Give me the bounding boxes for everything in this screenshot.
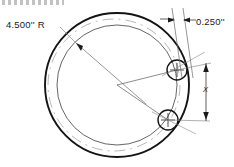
radius-arrowhead-icon (76, 43, 83, 51)
technical-drawing-canvas: 4.500'' R 0.250'' X (0, 0, 234, 167)
leader-center-to-upper-hole (117, 70, 177, 85)
radius-label-leader (60, 27, 76, 43)
lower-hole-extension-right (168, 120, 210, 121)
spacing-arrowhead-bottom-icon (203, 112, 209, 120)
lower-hole-group (152, 110, 210, 134)
radius-leader-line (76, 43, 146, 104)
thickness-dimension-label: 0.250'' (196, 17, 225, 27)
radius-dimension-leader (60, 27, 146, 104)
leader-center-to-lower-hole (117, 85, 168, 120)
radius-dimension-label: 4.500'' R (6, 20, 45, 30)
thickness-arrowhead-right-icon (183, 18, 190, 23)
bolt-centerline-circle (48, 19, 180, 151)
spacing-dimension-label: X (203, 86, 208, 94)
radial-leader-lines (117, 70, 177, 120)
spacing-arrowhead-top-icon (203, 64, 209, 72)
